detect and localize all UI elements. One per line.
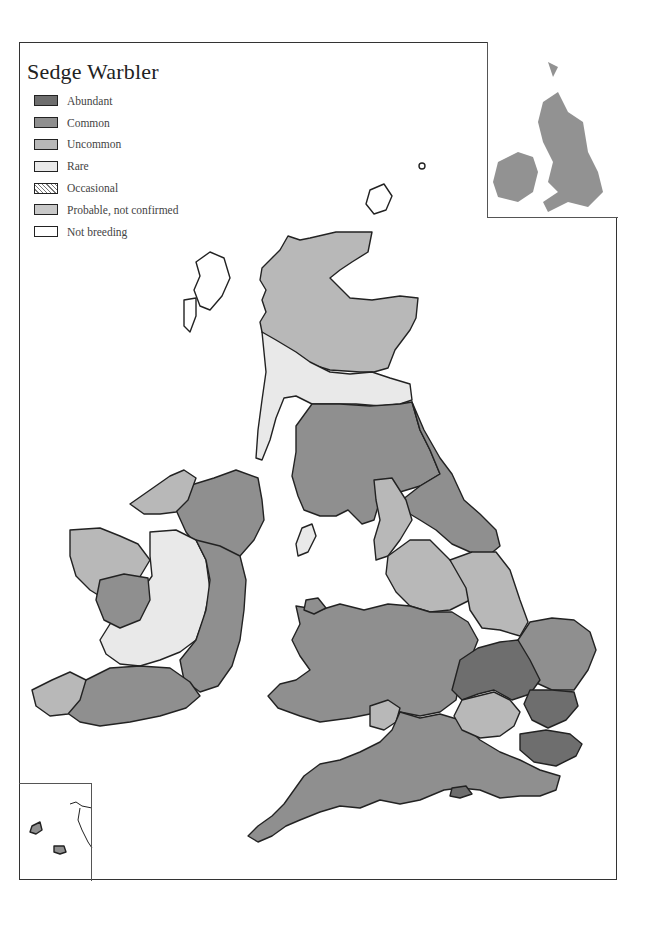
swatch-rare xyxy=(34,161,58,172)
legend: Abundant Common Uncommon Rare Occasional… xyxy=(34,90,178,243)
legend-item-occasional: Occasional xyxy=(34,177,178,199)
region-outer-hebrides xyxy=(194,252,230,310)
region-yorkshire-west xyxy=(386,540,470,612)
region-south-ireland xyxy=(66,666,200,726)
region-isle-of-man xyxy=(296,524,316,556)
region-uist xyxy=(184,298,196,332)
region-orkney xyxy=(366,184,392,214)
legend-item-common: Common xyxy=(34,112,178,134)
swatch-probable xyxy=(34,204,58,215)
legend-item-uncommon: Uncommon xyxy=(34,134,178,156)
map-title: Sedge Warbler xyxy=(27,59,159,85)
region-fair-isle xyxy=(419,163,425,169)
inset-channel-islands xyxy=(19,783,92,881)
legend-item-probable: Probable, not confirmed xyxy=(34,199,178,221)
region-south-west xyxy=(248,712,560,842)
swatch-uncommon xyxy=(34,139,58,150)
region-kent xyxy=(520,730,582,766)
swatch-not-breeding xyxy=(34,226,58,237)
swatch-occasional xyxy=(34,183,58,194)
legend-item-not-breeding: Not breeding xyxy=(34,221,178,243)
inset-distribution-grid xyxy=(487,42,618,218)
legend-item-rare: Rare xyxy=(34,155,178,177)
region-essex xyxy=(524,690,578,728)
legend-item-abundant: Abundant xyxy=(34,90,178,112)
swatch-common xyxy=(34,117,58,128)
grid-distribution-map xyxy=(488,42,617,216)
swatch-abundant xyxy=(34,95,58,106)
